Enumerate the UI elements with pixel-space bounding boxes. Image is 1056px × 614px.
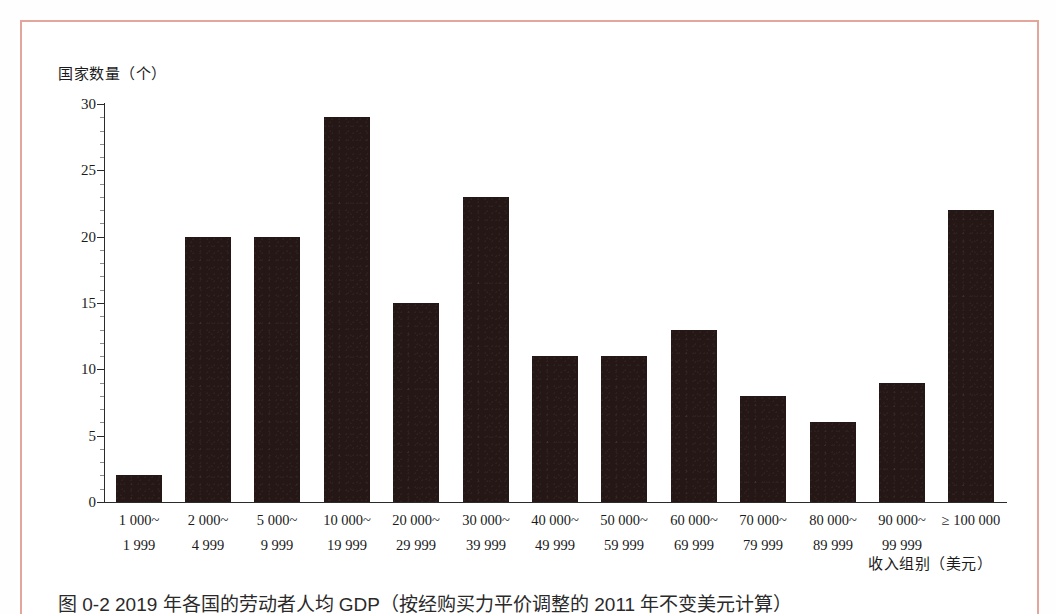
x-tick-label-line1: 40 000~: [531, 512, 579, 528]
x-tick-label: 40 000~49 999: [515, 508, 595, 558]
bar: [116, 475, 162, 502]
y-major-tick: [97, 369, 104, 370]
y-major-tick: [97, 237, 104, 238]
y-tick-label: 25: [81, 163, 96, 178]
y-tick-label: 20: [81, 229, 96, 244]
x-tick-label: 1 000~1 999: [99, 508, 179, 558]
x-axis-line: [104, 502, 1007, 503]
x-tick-label: 90 000~99 999: [862, 508, 942, 558]
bar-chart-figure: 国家数量（个） 051015202530 1 000~1 9992 000~4 …: [0, 0, 1056, 614]
y-tick-label: 0: [89, 495, 97, 510]
x-tick-label-line2: 9 999: [237, 533, 317, 558]
y-major-tick: [97, 104, 104, 105]
y-major-tick: [97, 303, 104, 304]
x-tick-label-line1: 60 000~: [670, 512, 718, 528]
x-axis-title: 收入组别（美元）: [868, 552, 992, 573]
bar: [879, 383, 925, 502]
x-tick-label: 80 000~89 999: [793, 508, 873, 558]
x-tick-label-line2: 19 999: [307, 533, 387, 558]
bar: [740, 396, 786, 502]
x-tick-label-line2: 69 999: [654, 533, 734, 558]
bar: [601, 356, 647, 502]
x-tick-label-line1: 5 000~: [257, 512, 297, 528]
x-tick-label-line2: 59 999: [584, 533, 664, 558]
x-tick-label: 5 000~9 999: [237, 508, 317, 558]
x-tick-label-line1: 50 000~: [600, 512, 648, 528]
y-major-tick: [97, 436, 104, 437]
x-tick-label-line2: 1 999: [99, 533, 179, 558]
bar: [254, 237, 300, 502]
x-tick-label: 2 000~4 999: [168, 508, 248, 558]
x-tick-label-line1: 30 000~: [462, 512, 510, 528]
bar: [185, 237, 231, 502]
y-axis-tick-labels: 051015202530: [58, 104, 96, 502]
figure-caption: 图 0-2 2019 年各国的劳动者人均 GDP（按经购买力平价调整的 2011…: [58, 592, 1018, 614]
y-tick-label: 10: [81, 362, 96, 377]
x-tick-label-line1: 10 000~: [323, 512, 371, 528]
y-tick-label: 30: [81, 97, 96, 112]
plot-area: [104, 104, 1006, 502]
x-tick-label-line1: 90 000~: [878, 512, 926, 528]
x-tick-label: 20 000~29 999: [376, 508, 456, 558]
x-tick-label: ≥ 100 000: [931, 508, 1011, 533]
x-tick-label: 70 000~79 999: [723, 508, 803, 558]
y-major-tick: [97, 170, 104, 171]
x-tick-label-line1: 80 000~: [809, 512, 857, 528]
x-tick-label-line2: 29 999: [376, 533, 456, 558]
bar: [393, 303, 439, 502]
y-major-tick: [97, 502, 104, 503]
x-tick-label-line2: 89 999: [793, 533, 873, 558]
bar: [948, 210, 994, 502]
x-tick-label-line2: 4 999: [168, 533, 248, 558]
x-tick-label-line1: 70 000~: [739, 512, 787, 528]
x-tick-label: 50 000~59 999: [584, 508, 664, 558]
x-tick-label-line1: 1 000~: [119, 512, 159, 528]
bar: [671, 330, 717, 502]
x-tick-label-line1: ≥ 100 000: [942, 512, 1001, 528]
x-tick-label: 10 000~19 999: [307, 508, 387, 558]
y-tick-label: 15: [81, 296, 96, 311]
bar: [810, 422, 856, 502]
x-tick-label: 30 000~39 999: [446, 508, 526, 558]
y-axis-title: 国家数量（个）: [58, 62, 167, 83]
x-tick-label-line1: 20 000~: [392, 512, 440, 528]
bar: [463, 197, 509, 502]
x-tick-label: 60 000~69 999: [654, 508, 734, 558]
x-tick-label-line2: 49 999: [515, 533, 595, 558]
x-tick-label-line1: 2 000~: [188, 512, 228, 528]
x-tick-label-line2: 79 999: [723, 533, 803, 558]
x-tick-label-line2: 39 999: [446, 533, 526, 558]
page-canvas: 国家数量（个） 051015202530 1 000~1 9992 000~4 …: [0, 0, 1056, 614]
y-tick-label: 5: [89, 428, 97, 443]
bar: [532, 356, 578, 502]
bar: [324, 117, 370, 502]
